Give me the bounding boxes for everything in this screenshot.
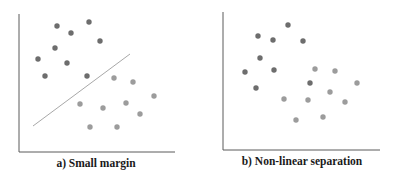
data-point-light	[332, 68, 337, 73]
data-point-light	[87, 124, 92, 129]
panel-non-linear-separation: b) Non-linear separation	[197, 0, 394, 178]
data-point-light	[354, 80, 359, 85]
data-point-dark	[84, 73, 89, 78]
data-point-dark	[68, 30, 73, 35]
data-point-dark	[54, 23, 59, 28]
data-point-dark	[255, 33, 260, 38]
data-point-dark	[42, 73, 47, 78]
scatter-plot-non-linear	[197, 0, 394, 178]
data-point-light	[123, 100, 128, 105]
data-point-dark	[300, 38, 305, 43]
data-point-dark	[270, 37, 275, 42]
data-point-light	[281, 96, 286, 101]
data-point-dark	[97, 38, 102, 43]
data-point-light	[137, 111, 142, 116]
data-point-dark	[271, 67, 276, 72]
caption-non-linear-separation: b) Non-linear separation	[242, 155, 363, 167]
data-point-light	[100, 105, 105, 110]
data-point-light	[111, 75, 116, 80]
decision-boundary-line	[33, 54, 130, 126]
data-point-dark	[285, 22, 290, 27]
caption-small-margin: a) Small margin	[56, 157, 135, 169]
data-point-light	[130, 79, 135, 84]
scatter-plot-small-margin	[0, 0, 197, 178]
panel-small-margin: a) Small margin	[0, 0, 197, 178]
data-point-light	[77, 101, 82, 106]
data-point-light	[114, 124, 119, 129]
data-point-dark	[253, 85, 258, 90]
data-point-dark	[307, 80, 312, 85]
data-point-light	[312, 66, 317, 71]
data-point-dark	[242, 69, 247, 74]
data-point-light	[342, 99, 347, 104]
data-point-dark	[64, 60, 69, 65]
data-point-dark	[86, 19, 91, 24]
data-point-light	[293, 117, 298, 122]
data-point-dark	[35, 56, 40, 61]
data-point-dark	[52, 45, 57, 50]
data-point-light	[320, 114, 325, 119]
data-point-light	[327, 89, 332, 94]
data-point-dark	[257, 55, 262, 60]
data-point-light	[151, 93, 156, 98]
data-point-light	[305, 97, 310, 102]
